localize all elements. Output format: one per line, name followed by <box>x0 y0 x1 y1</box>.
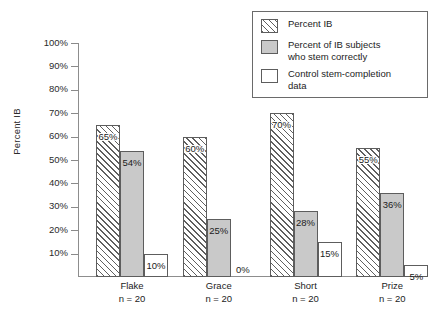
bar-value-label: 55% <box>357 154 379 165</box>
x-axis-category-name: Flake <box>87 280 177 293</box>
x-axis-category-count: n = 20 <box>347 293 437 306</box>
y-axis-tick-label: 40% <box>49 177 68 188</box>
bar-value-label: 10% <box>145 260 167 271</box>
bar-group: 65%54%10% <box>96 43 168 277</box>
bar-value-label: 15% <box>319 248 341 259</box>
legend-item: Percent of IB subjects who stem correctl… <box>261 39 420 62</box>
y-axis-tick-label: 30% <box>49 200 68 211</box>
x-axis-category-prize: Prizen = 20 <box>347 280 437 305</box>
bar: 70% <box>270 113 294 277</box>
x-axis-category-count: n = 20 <box>261 293 351 306</box>
bar: 15% <box>318 242 342 277</box>
y-axis-tick-label: 80% <box>49 83 68 94</box>
x-axis-category-count: n = 20 <box>174 293 264 306</box>
legend-item: Control stem-completion data <box>261 68 420 91</box>
bar-chart: Percent IB 100%90%80%70%60%50%40%30%20%1… <box>0 0 445 320</box>
x-axis-category-name: Short <box>261 280 351 293</box>
x-axis-category-flake: Flaken = 20 <box>87 280 177 305</box>
legend-label: Percent IB <box>288 18 332 30</box>
bar-value-label: 36% <box>381 199 403 210</box>
x-axis-category-name: Grace <box>174 280 264 293</box>
bar-value-label: 5% <box>405 271 427 282</box>
bar: 36% <box>380 193 404 277</box>
bar: 10% <box>144 254 168 277</box>
legend-swatch-open <box>261 69 278 83</box>
bar: 54% <box>120 151 144 277</box>
bar: 60% <box>183 137 207 277</box>
bar: 28% <box>294 211 318 277</box>
legend-label: Control stem-completion data <box>288 68 391 91</box>
bar: 55% <box>356 148 380 277</box>
x-axis-category-count: n = 20 <box>87 293 177 306</box>
legend-item: Percent IB <box>261 18 420 33</box>
y-axis: 100%90%80%70%60%50%40%30%20%10% <box>0 0 90 320</box>
bar-group: 60%25%0% <box>183 43 255 277</box>
bar-value-label: 25% <box>208 225 230 236</box>
legend: Percent IBPercent of IB subjects who ste… <box>252 11 428 98</box>
bar-value-label: 65% <box>97 131 119 142</box>
y-axis-tick-label: 90% <box>49 60 68 71</box>
bar: 5% <box>404 265 428 277</box>
x-axis-category-short: Shortn = 20 <box>261 280 351 305</box>
bar-value-label: 70% <box>271 119 293 130</box>
legend-swatch-solid <box>261 40 278 54</box>
bar-value-label: 60% <box>184 143 206 154</box>
y-axis-tick-label: 100% <box>44 37 68 48</box>
y-axis-tick-label: 10% <box>49 247 68 258</box>
legend-label: Percent of IB subjects who stem correctl… <box>288 39 380 62</box>
bar: 0% <box>231 259 255 277</box>
y-axis-tick-label: 60% <box>49 130 68 141</box>
y-axis-tick-label: 70% <box>49 107 68 118</box>
bar: 25% <box>207 219 231 278</box>
y-axis-tick-label: 20% <box>49 224 68 235</box>
y-axis-tick-label: 50% <box>49 154 68 165</box>
bar-value-label: 0% <box>231 264 255 275</box>
bar: 65% <box>96 125 120 277</box>
x-axis-category-grace: Gracen = 20 <box>174 280 264 305</box>
legend-swatch-hatch <box>261 19 278 33</box>
bar-value-label: 54% <box>121 157 143 168</box>
x-axis-labels: Flaken = 20Gracen = 20Shortn = 20Prizen … <box>78 280 425 320</box>
bar-value-label: 28% <box>295 217 317 228</box>
